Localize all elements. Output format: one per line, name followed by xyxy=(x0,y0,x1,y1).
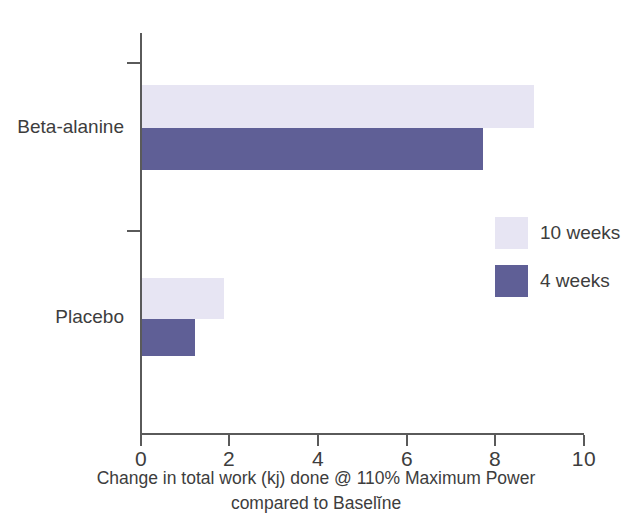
bar-beta-alanine-10-weeks xyxy=(142,85,534,128)
x-axis-tick xyxy=(494,435,496,446)
legend-label-10-weeks: 10 weeks xyxy=(540,222,620,244)
x-axis-title-line-1: Change in total work (kj) done @ 110% Ma… xyxy=(66,466,566,491)
x-axis-tick xyxy=(583,435,585,446)
legend-swatch-10-weeks xyxy=(495,217,528,249)
bar-placebo-10-weeks xyxy=(142,278,224,319)
x-axis-title-line-2: compared to Baselĭne xyxy=(66,491,566,516)
bar-beta-alanine-4-weeks xyxy=(142,128,483,170)
category-label-beta-alanine: Beta-alanine xyxy=(0,116,124,138)
legend-label-4-weeks: 4 weeks xyxy=(540,270,610,292)
x-axis-tick xyxy=(140,435,142,446)
bar-placebo-4-weeks xyxy=(142,319,195,356)
x-axis-tick xyxy=(317,435,319,446)
x-axis-title: Change in total work (kj) done @ 110% Ma… xyxy=(66,466,566,516)
x-axis-line xyxy=(140,433,584,435)
y-axis-tick xyxy=(127,62,141,64)
category-label-placebo: Placebo xyxy=(0,306,124,328)
y-axis-tick xyxy=(127,230,141,232)
x-axis-tick-label: 10 xyxy=(564,447,604,471)
bar-chart: 0 2 4 6 8 10 Beta-alanine Placebo 10 wee… xyxy=(0,0,632,531)
x-axis-tick xyxy=(228,435,230,446)
legend-swatch-4-weeks xyxy=(495,265,528,297)
x-axis-tick xyxy=(406,435,408,446)
